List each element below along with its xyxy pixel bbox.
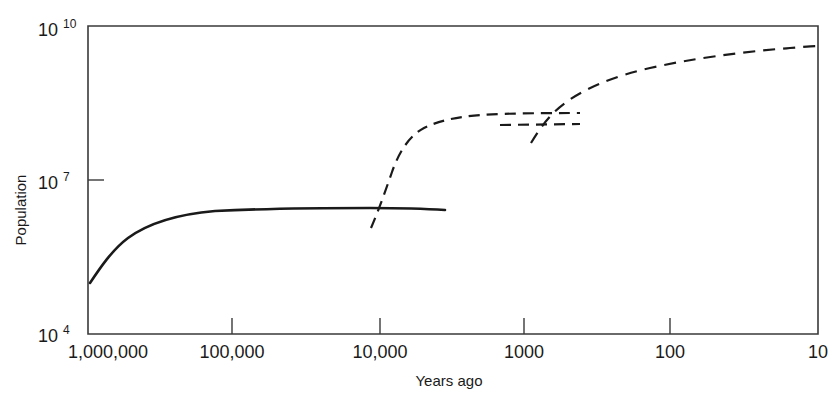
x-tick-label-100: 100 bbox=[655, 342, 685, 362]
y-tick-label-bottom-exponent: 4 bbox=[63, 323, 70, 337]
x-tick-label-1000: 1000 bbox=[504, 342, 544, 362]
x-tick-label-10: 10 bbox=[808, 342, 828, 362]
solid-population-curve bbox=[90, 208, 445, 283]
plot-border bbox=[88, 26, 818, 334]
plot-frame bbox=[88, 26, 818, 334]
y-axis-title: Population bbox=[12, 175, 29, 246]
x-tick-label-100000: 100,000 bbox=[199, 342, 264, 362]
dashed-industrial-curve bbox=[531, 46, 818, 143]
series-hunter-gatherer-plateau bbox=[90, 208, 445, 283]
y-tick-label-top-exponent: 10 bbox=[63, 17, 77, 31]
y-tick-labels: 10 10 10 7 10 4 bbox=[38, 17, 77, 346]
y-tick-label-mid-exponent: 7 bbox=[63, 170, 70, 184]
x-axis-title: Years ago bbox=[415, 372, 482, 389]
x-tick-label-10000: 10,000 bbox=[352, 342, 407, 362]
dashed-agricultural-plateau bbox=[500, 124, 580, 125]
x-tick-labels: 1,000,000 100,000 10,000 1000 100 10 bbox=[68, 342, 828, 362]
dashed-agricultural-curve bbox=[371, 113, 580, 228]
x-tick-label-1000000: 1,000,000 bbox=[68, 342, 148, 362]
series-industrial-revolution-rise bbox=[531, 46, 818, 143]
population-history-chart: 10 10 10 7 10 4 1,000,000 100,000 10,000… bbox=[0, 0, 839, 410]
series-agricultural-revolution-rise bbox=[371, 113, 580, 228]
chart-canvas: 10 10 10 7 10 4 1,000,000 100,000 10,000… bbox=[0, 0, 839, 410]
x-axis-ticks bbox=[232, 318, 670, 334]
y-tick-label-bottom-base: 10 bbox=[38, 326, 58, 346]
y-tick-label-mid-base: 10 bbox=[38, 173, 58, 193]
y-tick-label-top-base: 10 bbox=[38, 20, 58, 40]
